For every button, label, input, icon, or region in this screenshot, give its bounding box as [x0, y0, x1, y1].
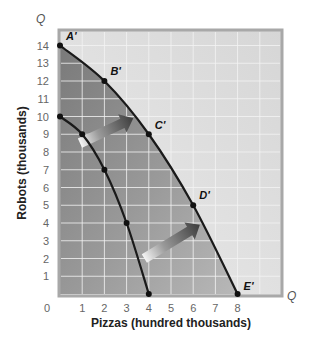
- y-tick-label: 13: [37, 57, 49, 69]
- y-axis-title: Robots (thousands): [15, 106, 29, 219]
- y-tick-label: 4: [43, 217, 49, 229]
- y-axis-ticks: 1234567891011121314: [37, 40, 49, 283]
- y-axis-end-label: Q: [36, 12, 45, 26]
- data-point: [146, 131, 152, 137]
- data-point: [124, 220, 130, 226]
- x-tick-label: 3: [124, 302, 130, 314]
- x-tick-label: 1: [79, 302, 85, 314]
- y-tick-label: 10: [37, 111, 49, 123]
- y-tick-label: 12: [37, 75, 49, 87]
- x-tick-label: 0: [44, 302, 50, 314]
- y-tick-label: 3: [43, 235, 49, 247]
- data-point: [101, 167, 107, 173]
- data-point: [57, 114, 63, 120]
- y-tick-label: 1: [43, 270, 49, 282]
- x-tick-label: 8: [235, 302, 241, 314]
- x-axis-end-label: Q: [287, 289, 296, 303]
- y-tick-label: 5: [43, 199, 49, 211]
- y-tick-label: 6: [43, 182, 49, 194]
- y-tick-label: 2: [43, 253, 49, 265]
- data-point: [235, 291, 241, 297]
- data-point: [190, 202, 196, 208]
- x-tick-label: 2: [101, 302, 107, 314]
- y-tick-label: 14: [37, 40, 49, 52]
- x-tick-label: 5: [168, 302, 174, 314]
- x-tick-label: 6: [190, 302, 196, 314]
- y-tick-label: 7: [43, 164, 49, 176]
- point-label: A': [65, 30, 77, 42]
- point-label: C': [155, 119, 166, 131]
- y-tick-label: 8: [43, 146, 49, 158]
- x-tick-label: 7: [212, 302, 218, 314]
- point-label: E': [244, 280, 254, 292]
- x-tick-label: 4: [146, 302, 152, 314]
- plot-area: A'B'C'D'E': [57, 30, 282, 298]
- data-point: [79, 131, 85, 137]
- y-tick-label: 11: [38, 93, 49, 105]
- y-tick-label: 9: [43, 128, 49, 140]
- ppf-chart: A'B'C'D'E' 1234567891011121314 012345678…: [0, 0, 314, 347]
- point-label: D': [199, 189, 210, 201]
- x-axis-title: Pizzas (hundred thousands): [91, 316, 251, 330]
- point-label: B': [110, 65, 121, 77]
- x-axis-ticks: 012345678: [44, 302, 241, 314]
- data-point: [101, 78, 107, 84]
- data-point: [57, 43, 63, 49]
- data-point: [146, 291, 152, 297]
